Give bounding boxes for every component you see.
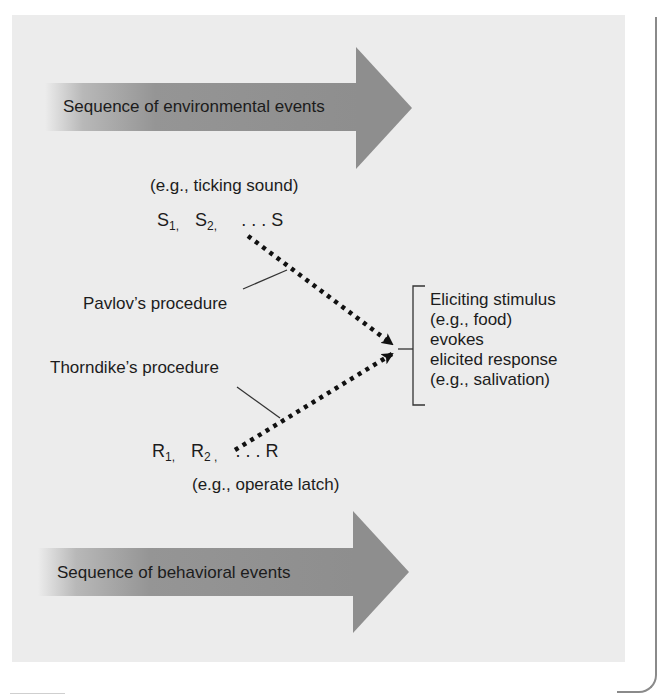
stimulus-s2: S2,: [195, 210, 217, 230]
outcome-bracket: [398, 286, 425, 405]
outcome-text: Eliciting stimulus (e.g., food) evokes e…: [430, 290, 558, 390]
environment-example: (e.g., ticking sound): [150, 176, 298, 196]
outcome-line-response-example: (e.g., salivation): [430, 370, 558, 390]
stimulus-ellipsis: . . .: [241, 210, 266, 230]
pavlov-procedure-label: Pavlov’s procedure: [83, 294, 227, 314]
environment-arrow-label: Sequence of environmental events: [63, 97, 325, 117]
response-r1: R1,: [152, 441, 175, 461]
outcome-line-elicited-response: elicited response: [430, 350, 558, 370]
thorndike-leader-line: [237, 387, 280, 418]
behavior-arrow-label: Sequence of behavioral events: [57, 563, 290, 583]
behavior-example: (e.g., operate latch): [192, 475, 339, 495]
thorndike-procedure-label: Thorndike’s procedure: [50, 358, 219, 378]
pavlov-leader-line: [243, 270, 287, 289]
pavlov-dotted-arrow: [248, 236, 392, 344]
outcome-line-eliciting-stimulus: Eliciting stimulus: [430, 290, 558, 310]
outcome-line-stimulus-example: (e.g., food): [430, 310, 558, 330]
response-r2: R2 ,: [191, 441, 217, 461]
response-last: R: [265, 441, 278, 461]
stimulus-s1: S1,: [157, 210, 179, 230]
stimulus-sequence: S1, S2, . . . S: [157, 210, 283, 230]
outcome-line-evokes: evokes: [430, 330, 558, 350]
stimulus-last: S: [271, 210, 283, 230]
response-sequence: R1, R2 , . . . R: [152, 441, 278, 461]
response-ellipsis: . . .: [235, 441, 260, 461]
